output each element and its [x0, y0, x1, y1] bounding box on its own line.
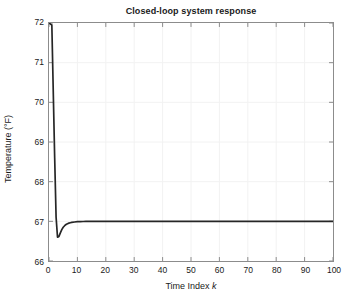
x-axis-tick-labels: 0102030405060708090100	[48, 266, 334, 278]
plot-area	[48, 22, 334, 262]
x-axis-title: Time Index k	[48, 281, 334, 291]
y-tick-label: 72	[8, 18, 44, 27]
plot-svg	[49, 23, 333, 261]
x-axis-title-variable: k	[212, 281, 217, 291]
x-tick-label: 100	[314, 266, 354, 275]
bottom-text-sliver	[2, 300, 182, 308]
y-axis-title-wrapper: Temperature (°F)	[3, 29, 17, 269]
x-axis-title-prefix: Time Index	[165, 281, 212, 291]
gridlines	[49, 23, 333, 261]
y-axis-title: Temperature (°F)	[3, 29, 13, 269]
figure-canvas: Closed-loop system response 666768697071…	[0, 0, 355, 308]
chart-title: Closed-loop system response	[48, 6, 334, 16]
